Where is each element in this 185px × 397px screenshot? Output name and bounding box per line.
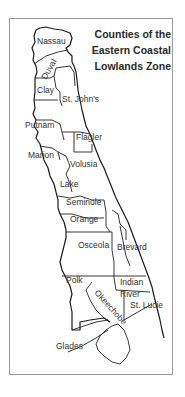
label-flagler: Flagler [76, 132, 102, 142]
label-clay: Clay [37, 85, 55, 95]
label-lake: Lake [60, 179, 79, 189]
label-indian: Indian [120, 277, 143, 287]
label-putnam: Putnam [25, 120, 54, 130]
label-river: River [120, 289, 140, 299]
label-st-lucie: St. Lucie [130, 300, 163, 310]
county-map: Nassau Duval Clay St. John's Putnam Flag… [0, 0, 185, 397]
label-polk: Polk [66, 275, 83, 285]
label-marion: Marion [28, 150, 54, 160]
label-nassau: Nassau [37, 36, 66, 46]
label-st-johns: St. John's [62, 94, 99, 104]
label-volusia: Volusia [70, 159, 98, 169]
county-labels: Nassau Duval Clay St. John's Putnam Flag… [25, 36, 163, 351]
label-orange: Orange [70, 214, 99, 224]
label-glades: Glades [56, 341, 83, 351]
lake-okeechobee [96, 324, 130, 364]
label-osceola: Osceola [78, 240, 109, 250]
label-seminole: Seminole [66, 197, 102, 207]
label-brevard: Brevard [117, 242, 147, 252]
